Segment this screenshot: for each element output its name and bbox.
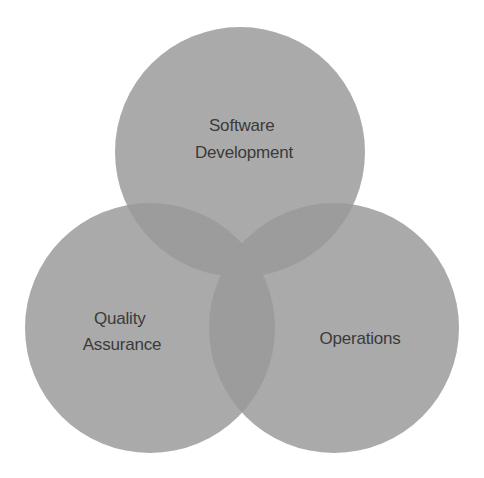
label-line: Operations — [319, 329, 400, 348]
label-line: Quality — [94, 309, 146, 328]
label-line: Development — [195, 143, 293, 162]
label-line: Software — [209, 116, 275, 135]
label-line: Assurance — [83, 335, 162, 354]
venn-diagram: Software Development Quality Assurance O… — [0, 0, 484, 478]
label-operations: Operations — [319, 329, 400, 348]
